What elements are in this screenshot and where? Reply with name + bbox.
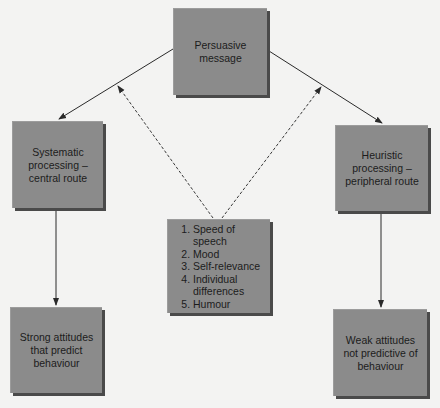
node-label: Strong attitudes that predict behaviour [20,331,94,370]
node-strong-attitudes: Strong attitudes that predict behaviour [10,307,102,393]
node-label: Systematic processing – central route [28,146,88,185]
node-label: Persuasive message [195,39,247,65]
node-weak-attitudes: Weak attitudes not predictive of behavio… [333,309,427,396]
diagram-canvas: Persuasive message Systematic processing… [0,0,440,408]
factor-item: Speed of speech [193,223,264,248]
arrow-persuasive-to-systematic [59,49,173,119]
arrow-persuasive-to-heuristic [269,51,382,123]
factors-list: Speed of speech Mood Self-relevance Indi… [180,223,264,311]
factor-item: Self-relevance [193,260,264,273]
node-heuristic-processing: Heuristic processing – peripheral route [335,125,428,211]
node-persuasive-message: Persuasive message [173,8,267,95]
node-label: Heuristic processing – peripheral route [345,149,419,188]
factor-item: Humour [193,298,264,311]
dashed-arrow-factors-to-peripheral-path [222,87,321,218]
dashed-arrow-factors-to-central-path [118,86,213,218]
node-moderating-factors: Speed of speech Mood Self-relevance Indi… [167,219,270,313]
node-systematic-processing: Systematic processing – central route [12,121,103,208]
node-label: Weak attitudes not predictive of behavio… [343,334,417,373]
factor-item: Individual differences [193,273,264,298]
factor-item: Mood [193,248,264,261]
